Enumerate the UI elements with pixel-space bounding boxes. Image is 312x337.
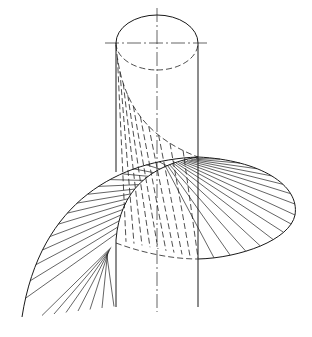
ruling-line [159, 135, 182, 254]
ruling-line [123, 84, 142, 246]
ruling-line [169, 165, 245, 252]
ruling-line [98, 185, 138, 187]
ruling-line [90, 252, 108, 309]
ruling-line [66, 250, 110, 313]
ruling-line [133, 106, 158, 249]
ruling-line [110, 180, 143, 181]
ruling-line [122, 174, 148, 177]
ruling-line [102, 254, 108, 309]
technical-drawing [0, 0, 312, 337]
left-sweep [22, 157, 198, 317]
ruling-line [42, 247, 111, 315]
ruling-line [88, 189, 135, 194]
ruling-line [50, 210, 123, 237]
ruling-line [107, 255, 114, 307]
ruling-line [187, 161, 283, 185]
ruling-line [174, 164, 273, 240]
ruling-line [167, 165, 230, 255]
right-flange [165, 157, 295, 259]
ruling-line [26, 233, 117, 298]
ruling-line [118, 58, 127, 241]
ruling-line [146, 165, 160, 169]
ruling-line [159, 162, 167, 166]
ruling-line [77, 194, 131, 203]
ruling-line [140, 117, 166, 251]
ruling-line [172, 164, 261, 246]
